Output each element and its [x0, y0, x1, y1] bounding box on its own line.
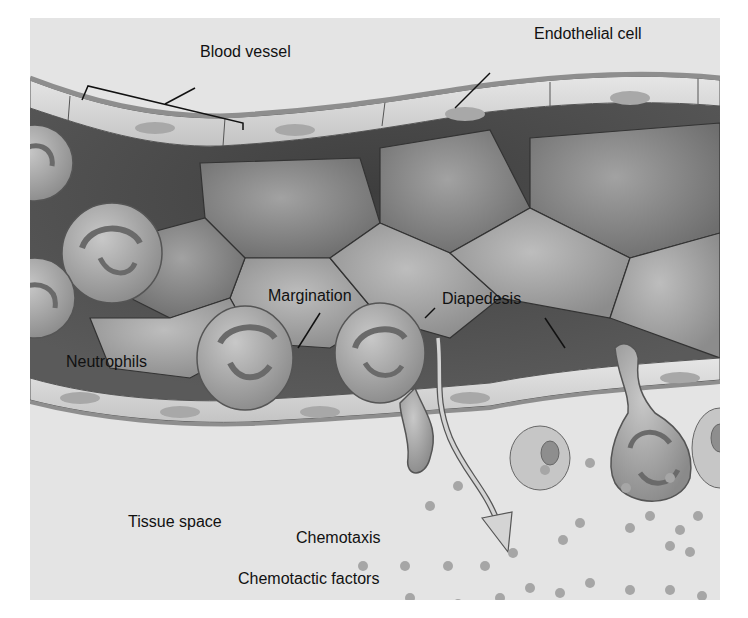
diagram-panel: Blood vessel Endothelial cell Marginatio…	[30, 18, 720, 600]
label-neutrophils: Neutrophils	[66, 354, 147, 370]
neutrophil-margination	[197, 306, 293, 410]
label-chemotactic-factors: Chemotactic factors	[238, 571, 379, 587]
label-blood-vessel: Blood vessel	[200, 44, 291, 60]
label-diapedesis: Diapedesis	[442, 291, 521, 307]
label-margination: Margination	[268, 288, 352, 304]
label-endothelial-cell: Endothelial cell	[534, 26, 642, 42]
label-tissue-space: Tissue space	[128, 514, 222, 530]
label-chemotaxis: Chemotaxis	[296, 530, 380, 546]
